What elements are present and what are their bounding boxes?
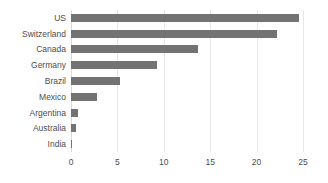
x-tick-label: 10 [159, 158, 168, 167]
bar[interactable] [71, 45, 198, 53]
x-tick-label: 0 [69, 158, 74, 167]
category-label: Argentina [0, 108, 66, 117]
category-label: Australia [0, 124, 66, 133]
plot-area [71, 10, 303, 152]
bar-row [71, 73, 303, 89]
bar[interactable] [71, 140, 72, 148]
category-label: India [0, 140, 66, 149]
bar-row [71, 57, 303, 73]
bar[interactable] [71, 109, 78, 117]
value-axis: 0510152025 [71, 158, 303, 172]
bar[interactable] [71, 30, 277, 38]
bar-series [71, 10, 303, 152]
bar[interactable] [71, 14, 299, 22]
category-label: Mexico [0, 93, 66, 102]
bar-row [71, 42, 303, 58]
gridline [303, 10, 304, 152]
category-label: Brazil [0, 77, 66, 86]
bar-row [71, 136, 303, 152]
bar-chart: USSwitzerlandCanadaGermanyBrazilMexicoAr… [0, 0, 328, 183]
category-label: Germany [0, 61, 66, 70]
x-tick-label: 15 [205, 158, 214, 167]
x-tick-label: 5 [115, 158, 120, 167]
bar-row [71, 26, 303, 42]
bar-row [71, 120, 303, 136]
bar-row [71, 105, 303, 121]
category-label: US [0, 14, 66, 23]
bar-row [71, 10, 303, 26]
bar[interactable] [71, 61, 157, 69]
category-label: Switzerland [0, 29, 66, 38]
x-tick-label: 25 [298, 158, 307, 167]
category-label: Canada [0, 45, 66, 54]
bar[interactable] [71, 124, 76, 132]
bar-row [71, 89, 303, 105]
bar[interactable] [71, 93, 97, 101]
x-tick-label: 20 [252, 158, 261, 167]
bar[interactable] [71, 77, 120, 85]
category-axis: USSwitzerlandCanadaGermanyBrazilMexicoAr… [0, 10, 66, 152]
